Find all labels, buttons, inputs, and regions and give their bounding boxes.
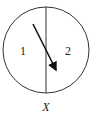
transition-arrow <box>33 24 56 70</box>
axis-label-x: X <box>41 100 50 114</box>
region-1-label: 1 <box>20 44 26 58</box>
region-2-label: 2 <box>65 44 71 58</box>
diagram-canvas: 1 2 X <box>0 0 111 114</box>
